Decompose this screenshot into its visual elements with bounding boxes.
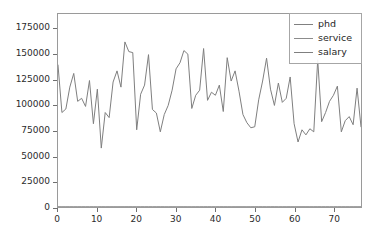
x-tick-label: 0 [54, 215, 60, 224]
legend-line-icon-phd [294, 24, 313, 25]
legend-label-service: service [318, 33, 352, 43]
legend-line-icon-service [294, 38, 313, 39]
y-tick-label: 125000 [2, 75, 50, 84]
x-tick-label: 30 [170, 215, 181, 224]
legend-item-phd[interactable]: phd [294, 17, 357, 31]
legend-line-icon-salary [294, 52, 313, 53]
legend-item-service[interactable]: service [294, 31, 357, 45]
x-tick-mark [295, 208, 296, 212]
y-tick-label: 150000 [2, 49, 50, 58]
legend-item-salary[interactable]: salary [294, 45, 357, 59]
x-tick-label: 60 [289, 215, 300, 224]
x-tick-label: 20 [130, 215, 141, 224]
x-tick-mark [136, 208, 137, 212]
y-tick-label: 0 [2, 203, 50, 212]
legend-label-salary: salary [318, 47, 347, 57]
x-tick-mark [334, 208, 335, 212]
legend-label-phd: phd [318, 19, 336, 29]
y-tick-label: 100000 [2, 100, 50, 109]
y-axis-tick-labels: 0250005000075000100000125000150000175000 [0, 0, 50, 244]
x-tick-mark [57, 208, 58, 212]
x-tick-label: 70 [329, 215, 340, 224]
x-tick-label: 40 [210, 215, 221, 224]
x-tick-mark [215, 208, 216, 212]
x-tick-mark [176, 208, 177, 212]
x-tick-label: 50 [249, 215, 260, 224]
y-tick-label: 50000 [2, 152, 50, 161]
chart-figure: 0250005000075000100000125000150000175000… [0, 0, 383, 244]
chart-legend: phd service salary [289, 13, 362, 64]
y-tick-label: 25000 [2, 177, 50, 186]
x-tick-mark [97, 208, 98, 212]
y-tick-label: 175000 [2, 23, 50, 32]
x-tick-mark [255, 208, 256, 212]
x-tick-label: 10 [91, 215, 102, 224]
y-tick-label: 75000 [2, 126, 50, 135]
